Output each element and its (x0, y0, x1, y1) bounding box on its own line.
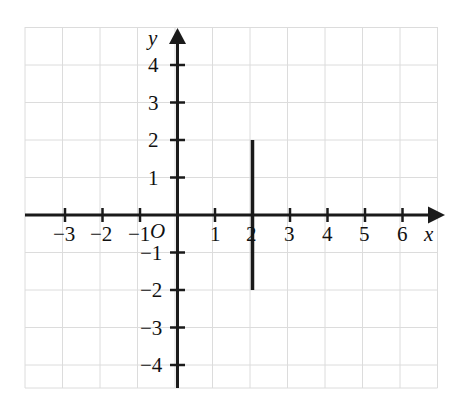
grid-lines (25, 27, 438, 388)
x-tick-label: 4 (322, 224, 333, 245)
x-axis-arrow-icon (428, 207, 445, 224)
x-tick-label: −2 (90, 224, 112, 245)
y-axis (169, 28, 186, 388)
y-axis-label: y (148, 28, 157, 49)
y-tick-label: −3 (140, 318, 162, 339)
x-tick-label: −3 (53, 224, 75, 245)
y-tick-label: 4 (148, 55, 159, 76)
x-axis (25, 207, 445, 224)
x-axis-label: x (424, 224, 433, 245)
x-tick-label: 2 (246, 224, 257, 245)
y-axis-arrow-icon (169, 28, 186, 44)
x-tick-label: 5 (359, 224, 370, 245)
y-tick-label: −4 (140, 355, 162, 376)
x-tick-label: 6 (397, 224, 408, 245)
origin-label: O (150, 221, 165, 242)
coordinate-plane-figure: y x O −3 −2 −1 1 2 3 4 5 6 4 3 2 1 −1 −2… (0, 0, 462, 403)
y-tick-label: 2 (148, 130, 159, 151)
x-tick-label: 1 (210, 224, 221, 245)
y-tick-label: −1 (140, 243, 162, 264)
y-tick-label: 1 (148, 168, 159, 189)
x-tick-label: 3 (284, 224, 295, 245)
plot-canvas (0, 0, 462, 403)
y-tick-label: −2 (140, 280, 162, 301)
y-tick-label: 3 (148, 93, 159, 114)
